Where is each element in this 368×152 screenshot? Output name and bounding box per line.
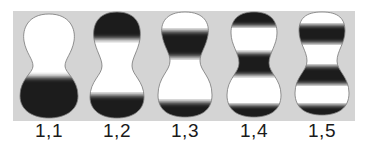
mode-label: 1,5 [289,120,355,142]
mode-label: 1,4 [221,120,287,142]
mode-label: 1,3 [152,120,218,142]
mode-shape-1-3 [152,11,218,121]
mode-shape-1-2 [84,11,150,121]
mode-shape-1-5 [289,11,355,121]
mode-shape-1-4 [221,11,287,121]
mode-shape-1-1 [16,11,82,121]
mode-label: 1,2 [84,120,150,142]
mode-label: 1,1 [16,120,82,142]
